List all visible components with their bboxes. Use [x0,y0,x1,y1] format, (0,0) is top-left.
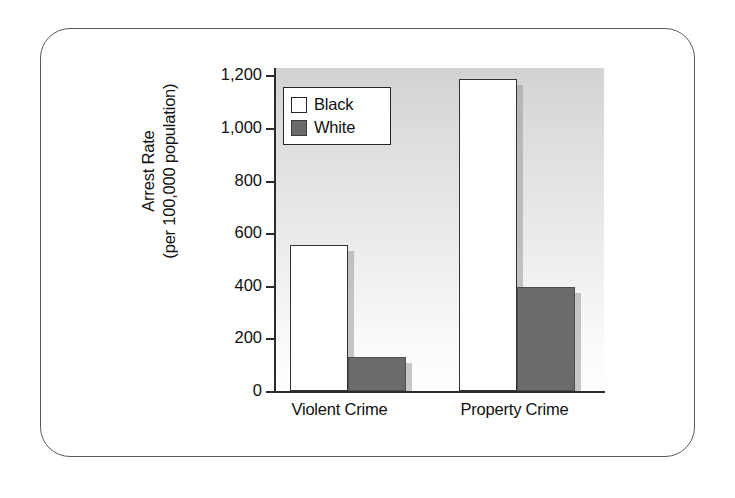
y-axis-line [274,68,276,393]
y-tick-1200 [266,75,274,77]
legend-swatch-black-icon [291,97,307,113]
legend-swatch-white-icon [291,120,307,136]
x-category-label-violent-crime: Violent Crime [272,400,407,419]
bar-property-white [517,287,575,391]
y-tick-400 [266,286,274,288]
x-category-label-property-crime: Property Crime [442,400,587,419]
y-axis-title: Arrest Rate (per 100,000 population) [138,6,180,336]
y-tick-label-1000: 1,000 [190,118,262,137]
bar-violent-black [290,245,348,391]
legend-item-black: Black [291,93,390,116]
legend-label-black: Black [314,96,353,113]
y-tick-label-1200: 1,200 [190,65,262,84]
chart-legend: Black White [283,87,391,145]
legend-item-white: White [291,116,390,139]
y-tick-label-800: 800 [190,171,262,190]
bar-property-black [459,79,517,391]
x-axis-line [274,391,605,393]
y-tick-0 [266,391,274,393]
y-tick-600 [266,233,274,235]
y-axis-title-line2: (per 100,000 population) [159,6,180,336]
legend-label-white: White [314,119,355,136]
y-tick-label-0: 0 [190,381,262,400]
y-axis-title-line1: Arrest Rate [138,6,159,336]
y-tick-800 [266,181,274,183]
y-tick-label-200: 200 [190,328,262,347]
y-tick-label-600: 600 [190,223,262,242]
bar-chart: 0 200 400 600 800 1,000 1,200 Black [0,0,735,498]
chart-figure: 0 200 400 600 800 1,000 1,200 Black [0,0,735,498]
y-tick-label-400: 400 [190,276,262,295]
y-tick-1000 [266,128,274,130]
bar-violent-white [348,357,406,391]
y-tick-200 [266,338,274,340]
